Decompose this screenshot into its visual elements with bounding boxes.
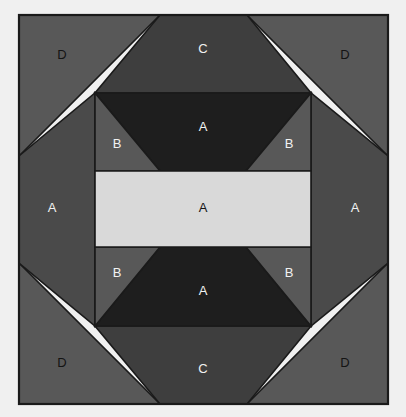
patch-layer — [19, 15, 388, 404]
patch-center-rectangle — [95, 171, 311, 247]
quilt-block-svg: DDDDCCAAAABBBBA — [0, 0, 406, 417]
quilt-block-diagram: DDDDCCAAAABBBBA — [0, 0, 406, 417]
